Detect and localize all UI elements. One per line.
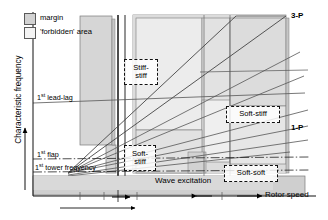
region-box-soft-soft: Soft-soft <box>224 165 278 182</box>
legend-item-margin: margin <box>24 13 92 25</box>
region-soft-stiff-left-line2: stiff <box>134 158 146 166</box>
legend-label-forbidden: 'forbidden' area <box>40 27 92 36</box>
x-axis-title: Rotor speed <box>265 191 309 199</box>
region-soft-stiff-right-line1: Soft-stiff <box>239 110 267 118</box>
label-1st-tower-frequency: 1st tower freqyency <box>35 163 96 172</box>
legend-label-forbidden-line1: 'forbidden' <box>40 27 75 36</box>
label-1st-flap: 1st flap <box>37 150 59 159</box>
legend-item-forbidden: 'forbidden' area <box>24 27 92 39</box>
label-3P: 3-P <box>291 12 303 20</box>
legend-label-forbidden-line2: area <box>77 27 92 36</box>
region-box-soft-stiff-left: Soft- stiff <box>124 145 156 171</box>
y-axis-title: Characteristic frequency <box>14 40 23 160</box>
region-box-soft-stiff-right: Soft-stiff <box>226 106 280 123</box>
forbidden-area-bands <box>80 15 289 173</box>
campbell-diagram-figure: margin 'forbidden' area Characteristic f… <box>0 0 328 220</box>
region-stiff-stiff-line2: stiff <box>135 72 147 80</box>
region-box-stiff-stiff: Stiff- stiff <box>124 59 158 85</box>
label-1st-tower-text: tower freqyency <box>43 163 96 172</box>
label-1P: 1-P <box>291 124 303 132</box>
label-1st-flap-text: flap <box>45 150 59 159</box>
margin-swatch <box>24 13 36 25</box>
label-1st-lead-lag: 1st lead-lag <box>37 93 73 102</box>
legend-label-margin: margin <box>40 13 63 22</box>
label-wave-excitation: Wave excitation <box>155 177 211 185</box>
forbidden-swatch <box>24 27 36 39</box>
label-1st-lead-lag-text: lead-lag <box>45 93 73 102</box>
region-soft-soft-line1: Soft-soft <box>237 169 265 177</box>
legend: margin 'forbidden' area <box>24 13 92 41</box>
